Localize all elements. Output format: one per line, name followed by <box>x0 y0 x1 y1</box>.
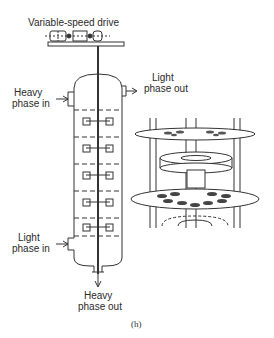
figure-caption: (h) <box>131 319 142 329</box>
internals-detail-view <box>131 118 259 228</box>
label-heavy-out-1: Heavy <box>84 290 112 301</box>
rdc-extractor-figure: Variable-speed drive Heavy phase in Ligh… <box>0 0 274 338</box>
label-light-out-2: phase out <box>144 83 188 94</box>
label-heavy-in-1: Heavy <box>14 87 42 98</box>
column-diagram-svg <box>0 0 274 338</box>
label-heavy-in-2: phase in <box>12 98 50 109</box>
label-heavy-out-2: phase out <box>78 301 122 312</box>
column-shell <box>56 74 137 287</box>
label-light-in-1: Light <box>18 232 40 243</box>
label-light-in-2: phase in <box>12 243 50 254</box>
label-drive: Variable-speed drive <box>28 17 119 28</box>
drive-motor-icon <box>45 31 124 46</box>
label-light-out-1: Light <box>152 72 174 83</box>
